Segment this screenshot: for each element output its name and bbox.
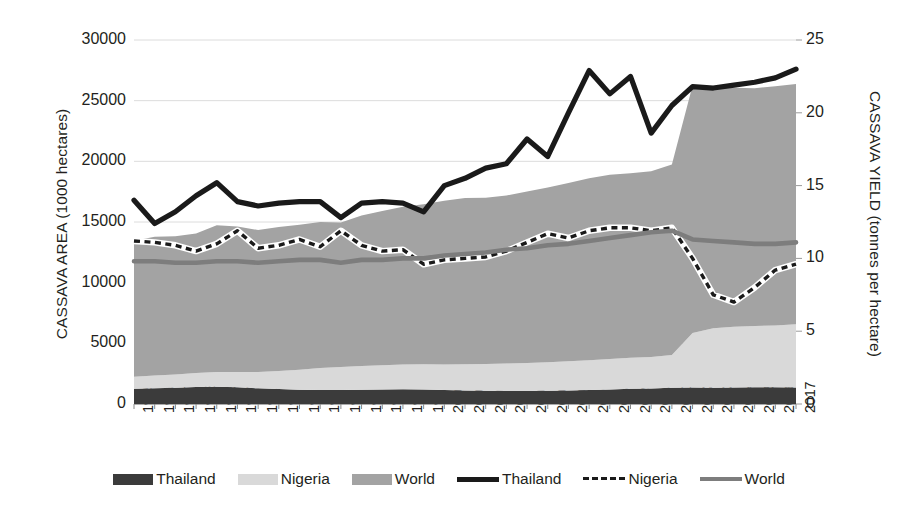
legend-label: Nigeria xyxy=(628,470,677,488)
legend-item-world-area[interactable]: World xyxy=(352,470,435,488)
y-axis-right-title: CASSAVA YIELD (tonnes per hectare) xyxy=(866,44,884,404)
y-axis-right-tick-label: 10 xyxy=(806,248,866,266)
legend-item-nigeria-area[interactable]: Nigeria xyxy=(238,470,330,488)
y-axis-right-tick-label: 15 xyxy=(806,176,866,194)
legend-label: Nigeria xyxy=(281,470,330,488)
y-axis-right-tick-label: 5 xyxy=(806,321,866,339)
y-axis-left-tick-label: 30000 xyxy=(40,30,126,48)
legend-item-thailand-area[interactable]: Thailand xyxy=(113,470,215,488)
cassava-area-yield-chart: CASSAVA AREA (1000 hectares) CASSAVA YIE… xyxy=(0,0,898,517)
y-axis-left-tick-label: 25000 xyxy=(40,91,126,109)
chart-legend: ThailandNigeriaWorldThailandNigeriaWorld xyxy=(0,470,898,488)
legend-item-world-line[interactable]: World xyxy=(700,470,785,488)
y-axis-left-tick-label: 20000 xyxy=(40,151,126,169)
legend-item-thailand-line[interactable]: Thailand xyxy=(457,470,561,488)
y-axis-left-tick-label: 0 xyxy=(40,394,126,412)
legend-label: Thailand xyxy=(156,470,215,488)
legend-swatch-icon xyxy=(238,474,278,485)
legend-swatch-icon xyxy=(113,474,153,485)
y-axis-left-tick-label: 15000 xyxy=(40,212,126,230)
y-axis-right-tick-label: 20 xyxy=(806,103,866,121)
stacked-areas xyxy=(134,84,796,404)
x-axis-tick-label: 2017 xyxy=(802,382,818,413)
legend-label: World xyxy=(395,470,435,488)
y-axis-right-tick-label: 25 xyxy=(806,30,866,48)
legend-label: Thailand xyxy=(502,470,561,488)
legend-label: World xyxy=(745,470,785,488)
chart-canvas xyxy=(134,40,796,404)
y-axis-left-tick-label: 5000 xyxy=(40,333,126,351)
y-right-tick-marks xyxy=(796,40,802,404)
legend-item-nigeria-line[interactable]: Nigeria xyxy=(583,470,677,488)
plot-area xyxy=(134,40,796,404)
legend-swatch-icon xyxy=(352,474,392,485)
y-axis-left-tick-label: 10000 xyxy=(40,273,126,291)
